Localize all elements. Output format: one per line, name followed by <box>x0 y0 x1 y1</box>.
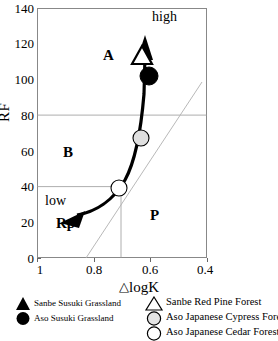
chart-figure: 140 120 100 80 60 40 20 0 RF <box>0 0 278 341</box>
region-label-rp: Rp <box>56 216 75 231</box>
y-tick-100: 100 <box>0 73 34 86</box>
legend-label-aso-japanese-cypress-forest: Aso Japanese Cypress Forest <box>166 311 278 323</box>
legend-column-left: Sanbe Susuki Grassland Aso Susuki Grassl… <box>14 296 144 326</box>
legend-item-sanbe-susuki-grassland: Sanbe Susuki Grassland <box>14 296 144 311</box>
x-tick-1: 1 <box>37 263 44 276</box>
legend-item-sanbe-red-pine-forest: Sanbe Red Pine Forest <box>144 296 278 311</box>
y-tick-0: 0 <box>0 252 34 265</box>
x-tick-08: 0.8 <box>86 263 102 276</box>
filled-circle-icon <box>14 311 32 326</box>
open-triangle-icon <box>144 296 162 311</box>
y-axis-ticks: 140 120 100 80 60 40 20 0 <box>0 8 34 258</box>
region-label-a: A <box>103 48 114 63</box>
annotation-low: low <box>45 194 66 208</box>
y-tick-140: 140 <box>0 2 34 15</box>
legend-item-aso-japanese-cypress-forest: Aso Japanese Cypress Forest <box>144 311 278 326</box>
annotation-high: high <box>152 10 177 24</box>
chart-legend: Sanbe Susuki Grassland Aso Susuki Grassl… <box>0 296 278 341</box>
triangle-delta-icon: △ <box>119 279 129 294</box>
legend-label-aso-susuki-grassland: Aso Susuki Grassland <box>34 312 114 324</box>
y-tick-120: 120 <box>0 37 34 50</box>
legend-column-right: Sanbe Red Pine Forest Aso Japanese Cypre… <box>144 296 278 341</box>
open-circle-icon <box>144 326 162 341</box>
region-label-b: B <box>63 145 73 160</box>
y-tick-60: 60 <box>0 145 34 158</box>
y-tick-20: 20 <box>0 216 34 229</box>
legend-item-aso-susuki-grassland: Aso Susuki Grassland <box>14 311 144 326</box>
marker-aso-japanese-cypress-forest <box>133 130 149 146</box>
y-axis-label: RF <box>0 103 13 122</box>
legend-label-sanbe-red-pine-forest: Sanbe Red Pine Forest <box>166 296 261 308</box>
x-tick-04: 0.4 <box>197 263 213 276</box>
y-tick-40: 40 <box>0 180 34 193</box>
legend-item-aso-japanese-cedar-forest: Aso Japanese Cedar Forest <box>144 326 278 341</box>
legend-label-aso-japanese-cedar-forest: Aso Japanese Cedar Forest <box>166 326 278 338</box>
gray-circle-icon <box>144 311 162 326</box>
marker-aso-susuki-grassland <box>140 67 158 85</box>
x-tick-06: 0.6 <box>142 263 158 276</box>
x-axis-ticks: 1 0.8 0.6 0.4 <box>37 258 207 280</box>
x-axis-label: △logK <box>0 279 278 296</box>
x-axis-label-text: logK <box>129 279 159 295</box>
region-label-p: P <box>150 208 159 223</box>
filled-triangle-icon <box>14 296 32 311</box>
marker-aso-japanese-cedar-forest <box>111 180 127 196</box>
legend-label-sanbe-susuki-grassland: Sanbe Susuki Grassland <box>34 297 121 309</box>
